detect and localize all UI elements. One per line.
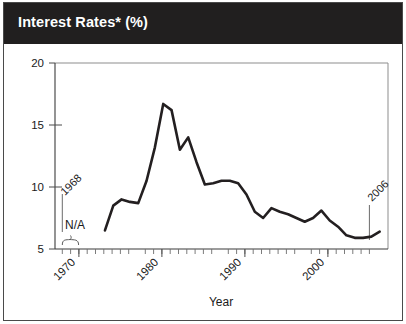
x-tick-label-1990: 1990: [217, 256, 244, 283]
title-bar: Interest Rates* (%): [4, 3, 402, 44]
annotation-na-label: N/A: [65, 218, 85, 232]
plot-frame: [55, 63, 388, 249]
y-tick-label-5: 5: [38, 243, 44, 255]
x-tick-label-1980: 1980: [134, 256, 161, 283]
x-axis-title: Year: [209, 295, 233, 309]
interest-rates-line-chart: 20 15 10 5: [0, 44, 406, 324]
chart-plot-area: 20 15 10 5: [0, 44, 406, 324]
y-tick-label-15: 15: [31, 119, 44, 131]
page-title: Interest Rates* (%): [18, 14, 148, 30]
x-tick-label-2000: 2000: [300, 256, 327, 283]
x-tick-label-1970: 1970: [51, 256, 78, 283]
y-tick-label-20: 20: [31, 57, 44, 69]
interest-rate-series: [105, 104, 380, 238]
x-axis-minor-ticks: [62, 249, 369, 254]
annotation-start-year: 1968: [58, 172, 84, 198]
annotation-end-year: 2006: [365, 178, 391, 204]
na-range-brace: [62, 236, 78, 246]
interest-rates-figure: Interest Rates* (%) 20 15 10 5: [0, 0, 406, 324]
y-tick-label-10: 10: [31, 181, 44, 193]
